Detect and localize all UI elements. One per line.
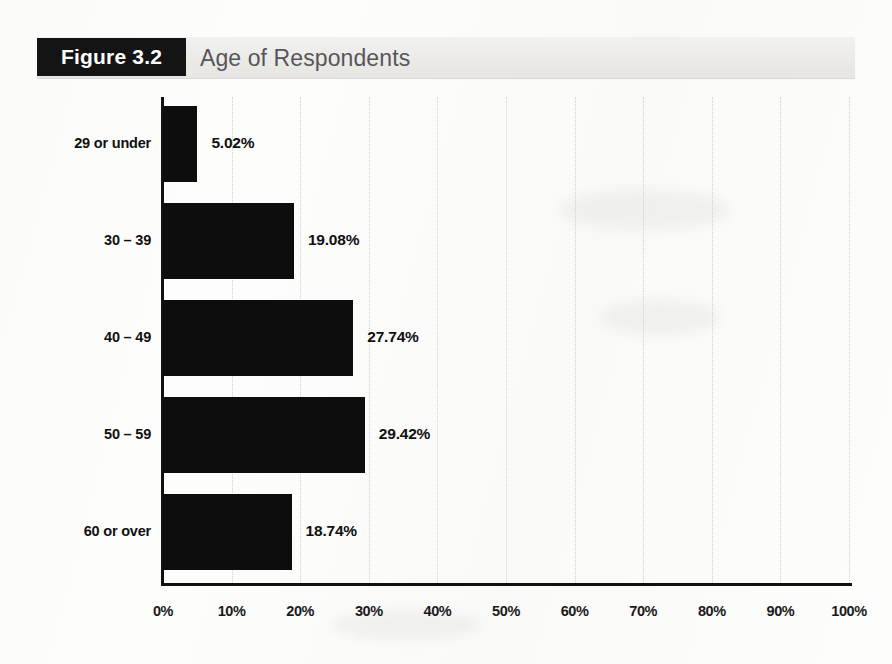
bar-value-label: 5.02% (211, 134, 254, 152)
x-gridline (712, 97, 714, 583)
bar (163, 106, 197, 182)
bar (163, 397, 365, 473)
x-gridline (575, 97, 577, 583)
category-label: 60 or over (11, 523, 151, 539)
x-tick-label: 30% (339, 603, 399, 619)
bar-value-label: 27.74% (367, 328, 418, 346)
x-axis-line (161, 583, 852, 586)
x-gridline (780, 97, 782, 583)
x-gridline (437, 97, 439, 583)
bar-value-label: 29.42% (379, 425, 430, 443)
x-tick-label: 0% (133, 603, 193, 619)
bar-value-label: 19.08% (308, 231, 359, 249)
bar (163, 300, 353, 376)
x-tick-label: 80% (682, 603, 742, 619)
category-label: 29 or under (11, 135, 151, 151)
x-tick-label: 60% (545, 603, 605, 619)
x-tick-label: 40% (407, 603, 467, 619)
bar-value-label: 18.74% (306, 522, 357, 540)
x-tick-label: 100% (819, 603, 879, 619)
x-tick-label: 70% (613, 603, 673, 619)
chart-plot-area: 5.02%29 or under19.08%30 – 3927.74%40 – … (0, 0, 892, 664)
x-gridline (849, 97, 851, 583)
x-gridline (643, 97, 645, 583)
category-label: 50 – 59 (11, 426, 151, 442)
x-tick-label: 90% (750, 603, 810, 619)
x-gridline (506, 97, 508, 583)
category-label: 30 – 39 (11, 232, 151, 248)
category-label: 40 – 49 (11, 329, 151, 345)
bar (163, 203, 294, 279)
figure-container: Figure 3.2 Age of Respondents 5.02%29 or… (0, 0, 892, 664)
x-tick-label: 10% (202, 603, 262, 619)
bar (163, 494, 292, 570)
x-tick-label: 50% (476, 603, 536, 619)
x-tick-label: 20% (270, 603, 330, 619)
